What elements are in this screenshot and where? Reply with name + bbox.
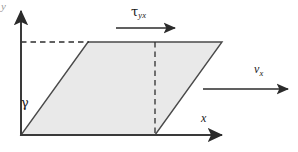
shear-deformation-figure: y x γ τyx vx	[0, 0, 298, 152]
y-axis-label: y	[1, 1, 6, 12]
sheared-parallelogram	[21, 42, 222, 135]
figure-canvas	[0, 0, 298, 152]
x-axis-label: x	[201, 112, 206, 124]
tau-subscript: yx	[138, 10, 146, 20]
shear-strain-gamma-label: γ	[21, 96, 29, 109]
v-subscript: x	[259, 68, 263, 78]
shear-stress-tau-label: τyx	[131, 5, 146, 18]
velocity-vx-label: vx	[254, 63, 263, 75]
